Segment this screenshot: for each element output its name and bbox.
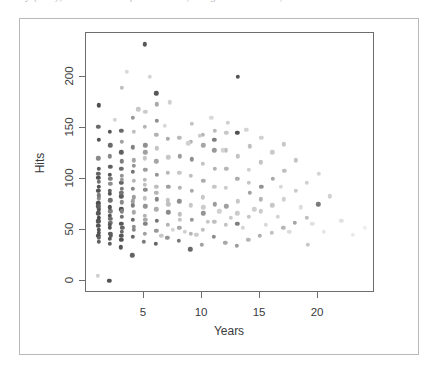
data-point — [131, 217, 135, 221]
caption-text: y (raw), residuals and fitted values, de… — [26, 0, 426, 2]
data-point — [159, 234, 163, 238]
data-point — [154, 207, 158, 211]
data-point — [155, 118, 159, 122]
data-point — [189, 189, 193, 193]
data-point — [131, 145, 135, 149]
data-point — [212, 219, 216, 223]
data-point — [120, 140, 124, 144]
data-point — [120, 178, 124, 182]
x-tick — [143, 292, 144, 298]
data-point — [130, 253, 134, 257]
data-point — [247, 214, 251, 218]
x-axis-label: Years — [214, 324, 244, 338]
data-point — [252, 207, 256, 211]
x-tick — [317, 292, 318, 298]
data-point — [108, 164, 112, 168]
data-point — [247, 191, 251, 195]
data-point — [177, 136, 181, 140]
data-point — [131, 158, 135, 162]
data-point — [95, 273, 99, 277]
data-point — [299, 205, 303, 209]
data-point — [155, 218, 159, 222]
x-tick-label: 10 — [195, 306, 208, 318]
data-point — [154, 185, 158, 189]
data-point — [270, 203, 274, 207]
data-point — [131, 228, 135, 232]
data-point — [142, 240, 146, 244]
data-point — [189, 232, 193, 236]
data-point — [351, 233, 355, 237]
data-point — [271, 177, 275, 181]
data-point — [212, 138, 216, 142]
data-point — [131, 199, 135, 203]
data-point — [200, 195, 204, 199]
y-tick — [79, 229, 85, 230]
data-point — [165, 236, 169, 240]
data-point — [188, 247, 192, 251]
y-tick-label: 100 — [63, 168, 75, 187]
y-tick — [79, 76, 85, 77]
data-point — [178, 217, 182, 221]
data-point — [143, 221, 147, 225]
data-point — [166, 170, 170, 174]
data-point — [186, 141, 190, 145]
data-point — [224, 222, 228, 226]
data-point — [120, 159, 124, 163]
y-tick-label: 50 — [63, 222, 75, 235]
data-point — [275, 214, 279, 218]
data-point — [294, 158, 298, 162]
data-point — [155, 146, 159, 150]
data-point — [119, 234, 123, 238]
data-point — [212, 148, 216, 152]
data-point — [224, 166, 228, 170]
x-tick-label: 20 — [311, 306, 324, 318]
data-point — [119, 245, 123, 249]
data-point — [148, 75, 152, 79]
data-point — [209, 115, 213, 119]
data-point — [97, 180, 101, 184]
data-point — [108, 177, 112, 181]
data-point — [155, 197, 159, 201]
data-point — [108, 242, 112, 246]
data-point — [244, 128, 248, 132]
data-point — [236, 199, 240, 203]
data-point — [119, 166, 123, 170]
data-point — [259, 185, 263, 189]
data-point — [142, 178, 146, 182]
data-point — [305, 181, 309, 185]
y-tick — [79, 178, 85, 179]
data-point — [305, 243, 309, 247]
data-point — [108, 130, 112, 134]
data-point — [108, 192, 112, 196]
data-point — [120, 214, 124, 218]
plot-panel — [85, 32, 374, 292]
data-point — [246, 238, 250, 242]
data-point — [155, 102, 159, 106]
data-point — [131, 203, 135, 207]
data-point — [235, 211, 239, 215]
data-point — [143, 204, 147, 208]
data-point — [247, 181, 251, 185]
data-point — [131, 179, 135, 183]
data-point — [270, 150, 274, 154]
y-axis-label: Hits — [33, 153, 47, 174]
data-point — [177, 226, 181, 230]
data-point — [96, 125, 100, 129]
data-point — [189, 157, 193, 161]
data-point — [178, 186, 182, 190]
data-point — [119, 150, 123, 154]
data-point — [108, 182, 112, 186]
data-point — [236, 154, 240, 158]
data-point — [154, 133, 158, 137]
data-point — [212, 185, 216, 189]
data-point — [163, 124, 167, 128]
data-point — [200, 161, 204, 165]
data-point — [97, 103, 101, 107]
data-point — [155, 173, 159, 177]
data-point — [177, 239, 181, 243]
data-point — [97, 240, 101, 244]
data-point — [143, 109, 147, 113]
data-point — [200, 228, 204, 232]
data-point — [97, 166, 101, 170]
data-point — [108, 198, 112, 202]
